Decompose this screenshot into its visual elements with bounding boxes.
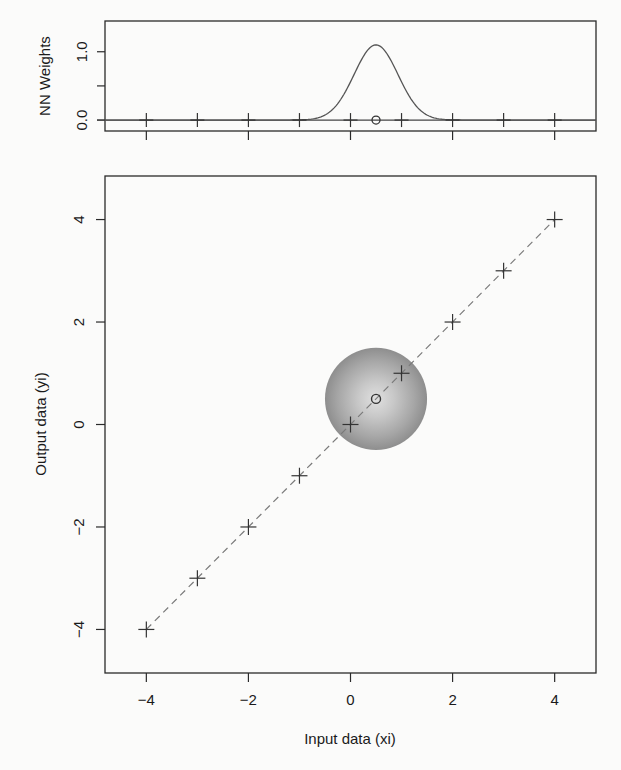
- plus-marker: [190, 113, 204, 127]
- kernel-weight-curve: [105, 45, 596, 120]
- plus-marker: [344, 113, 358, 127]
- y-tick-label: 1.0: [73, 41, 90, 62]
- y-tick-label: 4: [70, 215, 87, 223]
- bottom-y-axis: −4−2024: [70, 215, 105, 638]
- y-tick-label: 0.0: [73, 110, 90, 131]
- bottom-panel-data: −4−2024 −4−2024 Input data (xi) Output d…: [32, 176, 596, 747]
- plus-marker: [138, 621, 154, 637]
- chart-figure: 0.01.0 NN Weights −4−2024 −4−2024 Input …: [0, 0, 621, 770]
- plus-marker: [139, 113, 153, 127]
- weight-markers: [139, 113, 561, 127]
- plus-marker: [395, 113, 409, 127]
- plus-marker: [548, 113, 562, 127]
- x-tick-label: 0: [346, 691, 354, 708]
- plus-marker: [241, 113, 255, 127]
- top-y-axis-label: NN Weights: [36, 36, 53, 116]
- plus-marker: [292, 113, 306, 127]
- bottom-x-axis: −4−2024: [138, 673, 559, 708]
- y-tick-label: 0: [70, 420, 87, 428]
- plus-marker: [446, 113, 460, 127]
- y-tick-label: −4: [70, 621, 87, 638]
- top-x-axis: [146, 131, 554, 140]
- x-tick-label: 2: [448, 691, 456, 708]
- x-axis-label: Input data (xi): [304, 730, 396, 747]
- y-tick-label: 2: [70, 318, 87, 326]
- top-panel-weights: 0.01.0 NN Weights: [36, 21, 596, 140]
- y-tick-label: −2: [70, 518, 87, 535]
- y-axis-label: Output data (yi): [32, 372, 49, 475]
- x-tick-label: 4: [550, 691, 558, 708]
- x-tick-label: −4: [138, 691, 155, 708]
- top-y-axis: 0.01.0: [73, 41, 105, 130]
- plus-marker: [497, 113, 511, 127]
- x-tick-label: −2: [240, 691, 257, 708]
